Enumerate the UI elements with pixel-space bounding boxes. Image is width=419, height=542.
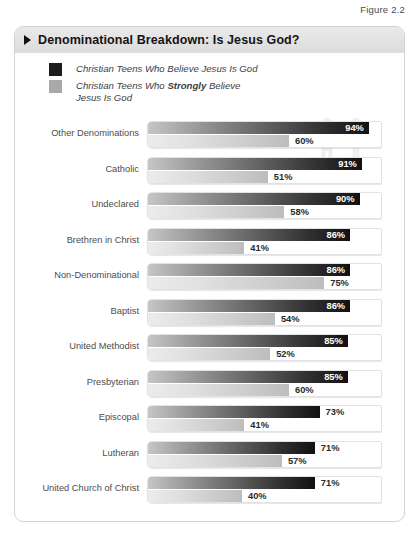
- row-label-episcopal: Episcopal: [99, 412, 139, 422]
- chart-title-bar: Denominational Breakdown: Is Jesus God?: [15, 27, 404, 54]
- bar-believe: 94%: [148, 122, 369, 134]
- bar-believe-value: 73%: [326, 407, 345, 417]
- bar-believe-value: 71%: [321, 443, 340, 453]
- bar-strongly-believe: 75%: [148, 277, 324, 289]
- bar-strongly-believe: 57%: [148, 455, 282, 467]
- chart-row: Other Denominations94%60%: [15, 119, 404, 155]
- bar-strongly-believe-value: 54%: [281, 314, 300, 324]
- chart-row: Undeclared90%58%: [15, 190, 404, 226]
- bar-track: 71%57%: [147, 441, 382, 468]
- chart-row: Baptist86%54%: [15, 297, 404, 333]
- bar-strongly-believe-value: 58%: [290, 207, 309, 217]
- figure-card: Denominational Breakdown: Is Jesus God? …: [14, 26, 405, 522]
- figure-caption: Figure 2.2: [0, 4, 405, 15]
- row-label-presbyterian: Presbyterian: [87, 377, 139, 387]
- chart-row: Catholic91%51%: [15, 155, 404, 191]
- bar-believe: 85%: [148, 371, 348, 383]
- bar-believe-value: 94%: [345, 123, 364, 133]
- bar-strongly-believe: 41%: [148, 419, 244, 431]
- bar-strongly-believe-value: 41%: [250, 243, 269, 253]
- bar-believe-value: 71%: [321, 478, 340, 488]
- bar-strongly-believe-value: 57%: [288, 456, 307, 466]
- bar-believe-value: 91%: [338, 159, 357, 169]
- bar-believe-value: 90%: [336, 194, 355, 204]
- row-label-united-methodist: United Methodist: [69, 341, 139, 351]
- legend-swatch-believe: [49, 63, 62, 76]
- legend-label-emphasis: Strongly: [167, 80, 206, 91]
- chart-rows: Other Denominations94%60%Catholic91%51%U…: [15, 119, 404, 510]
- triangle-right-icon: [24, 35, 31, 45]
- bar-strongly-believe-value: 60%: [295, 136, 314, 146]
- chart-row: United Methodist85%52%: [15, 332, 404, 368]
- legend-label-believe: Christian Teens Who Believe Jesus Is God: [76, 63, 257, 75]
- row-label-brethren-in-christ: Brethren in Christ: [67, 235, 139, 245]
- bar-believe: 71%: [148, 477, 315, 489]
- bar-track: 86%75%: [147, 263, 382, 290]
- chart-legend: Christian Teens Who Believe Jesus Is God…: [15, 53, 404, 115]
- row-label-other-denominations: Other Denominations: [51, 128, 139, 138]
- bar-track: 91%51%: [147, 157, 382, 184]
- row-label-lutheran: Lutheran: [102, 448, 139, 458]
- legend-label-prefix: Christian Teens Who: [76, 80, 167, 91]
- bar-strongly-believe: 54%: [148, 313, 275, 325]
- chart-row: Lutheran71%57%: [15, 439, 404, 475]
- bar-believe: 90%: [148, 193, 360, 205]
- chart-row: Non-Denominational86%75%: [15, 261, 404, 297]
- bar-believe: 91%: [148, 158, 362, 170]
- bar-believe-value: 86%: [326, 301, 345, 311]
- chart-row: Presbyterian85%60%: [15, 368, 404, 404]
- row-label-baptist: Baptist: [111, 306, 139, 316]
- chart-row: Episcopal73%41%: [15, 403, 404, 439]
- legend-item-strongly-believe: Christian Teens Who Strongly Believe Jes…: [49, 80, 240, 103]
- bar-strongly-believe-value: 40%: [248, 491, 267, 501]
- bar-believe: 71%: [148, 442, 315, 454]
- bar-strongly-believe: 41%: [148, 242, 244, 254]
- bar-strongly-believe: 51%: [148, 171, 268, 183]
- bar-believe-value: 86%: [326, 230, 345, 240]
- bar-track: 71%40%: [147, 476, 382, 503]
- bar-strongly-believe-value: 52%: [276, 349, 295, 359]
- bar-strongly-believe-value: 41%: [250, 420, 269, 430]
- legend-swatch-strongly-believe: [49, 80, 62, 93]
- page-title: Denominational Breakdown: Is Jesus God?: [38, 33, 300, 47]
- bar-track: 86%41%: [147, 228, 382, 255]
- bar-believe: 73%: [148, 406, 320, 418]
- chart-row: United Church of Christ71%40%: [15, 474, 404, 510]
- bar-track: 90%58%: [147, 192, 382, 219]
- bar-strongly-believe-value: 75%: [330, 278, 349, 288]
- row-label-catholic: Catholic: [105, 164, 139, 174]
- bar-track: 85%52%: [147, 334, 382, 361]
- row-label-non-denominational: Non-Denominational: [54, 270, 139, 280]
- row-label-united-church-of-christ: United Church of Christ: [42, 483, 139, 493]
- bar-strongly-believe: 60%: [148, 384, 289, 396]
- bar-believe: 86%: [148, 300, 350, 312]
- bar-strongly-believe: 52%: [148, 348, 270, 360]
- bar-believe-value: 85%: [324, 336, 343, 346]
- bar-track: 85%60%: [147, 370, 382, 397]
- bar-strongly-believe: 58%: [148, 206, 284, 218]
- legend-label-strongly-believe: Christian Teens Who Strongly Believe Jes…: [76, 80, 240, 103]
- bar-strongly-believe: 60%: [148, 135, 289, 147]
- bar-believe: 86%: [148, 264, 350, 276]
- bar-believe-value: 85%: [324, 372, 343, 382]
- bar-strongly-believe-value: 51%: [274, 172, 293, 182]
- bar-believe-value: 86%: [326, 265, 345, 275]
- bar-believe: 86%: [148, 229, 350, 241]
- bar-strongly-believe: 40%: [148, 490, 242, 502]
- legend-item-believe: Christian Teens Who Believe Jesus Is God: [49, 63, 257, 76]
- bar-strongly-believe-value: 60%: [295, 385, 314, 395]
- bar-track: 86%54%: [147, 299, 382, 326]
- bar-believe: 85%: [148, 335, 348, 347]
- row-label-undeclared: Undeclared: [91, 199, 139, 209]
- chart-row: Brethren in Christ86%41%: [15, 226, 404, 262]
- bar-track: 94%60%: [147, 121, 382, 148]
- bar-track: 73%41%: [147, 405, 382, 432]
